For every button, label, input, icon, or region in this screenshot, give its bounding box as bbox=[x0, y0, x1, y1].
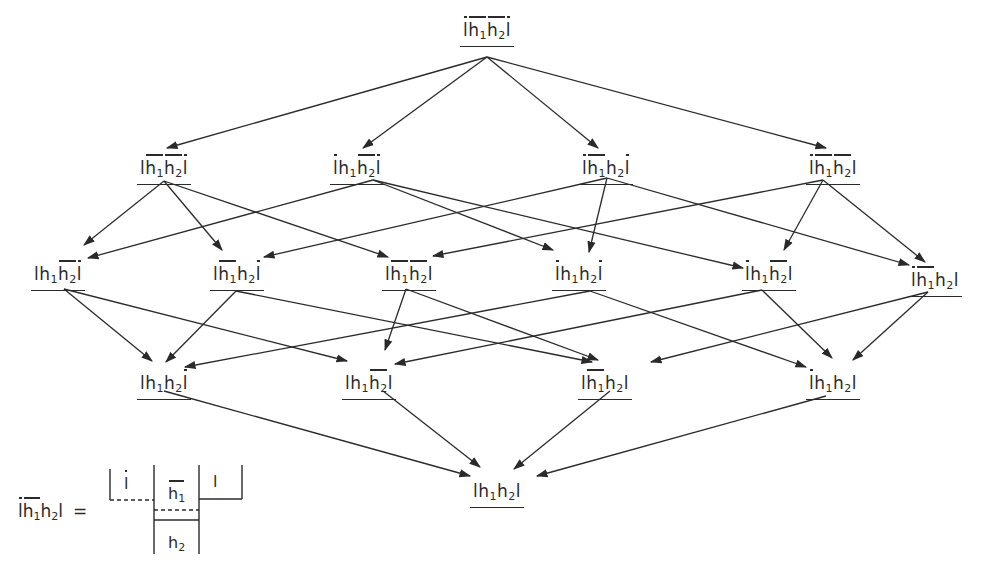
lattice-node-E: lh1h2l bbox=[31, 258, 85, 291]
edge-I-to-N bbox=[762, 290, 832, 358]
node-label: lh1h2l bbox=[31, 258, 85, 291]
lattice-node-A: lh1h2l bbox=[137, 152, 191, 185]
node-label: lh1h2l bbox=[330, 152, 384, 185]
legend-cell-l: l bbox=[213, 466, 217, 491]
symbol-l: l bbox=[388, 367, 393, 393]
lattice-node-M: lh1h2l bbox=[578, 367, 632, 400]
symbol-h1: h1 bbox=[350, 367, 369, 396]
lattice-node-B: lh1h2l bbox=[330, 152, 384, 185]
symbol-h2: h2 bbox=[497, 475, 516, 504]
symbol-l: l bbox=[428, 258, 433, 284]
symbol-h1: h1 bbox=[814, 367, 833, 396]
symbol-l: l bbox=[516, 475, 521, 501]
complemented-symbol-h1: h1 bbox=[814, 152, 833, 181]
edge-A-to-E bbox=[84, 181, 164, 245]
edge-top-to-A bbox=[167, 57, 487, 148]
lattice-node-C: lh1h2l bbox=[579, 152, 633, 185]
complemented-symbol-h1: h1 bbox=[168, 478, 185, 503]
symbol-h2: h2 bbox=[606, 152, 625, 181]
node-label: lh1h2l bbox=[137, 367, 191, 400]
complemented-symbol-h1: h1 bbox=[390, 258, 409, 287]
node-label: lh1h2l bbox=[382, 258, 436, 291]
legend-formula: lh1h2l= bbox=[18, 495, 87, 521]
lattice-node-top: lh1h2l bbox=[460, 14, 514, 47]
node-label: lh1h2l bbox=[137, 152, 191, 185]
complemented-symbol-h2: h2 bbox=[769, 258, 788, 287]
edge-B-to-H bbox=[373, 180, 553, 250]
edge-C-to-J bbox=[607, 178, 909, 265]
node-label: lh1h2l bbox=[210, 258, 264, 291]
edge-G-to-L bbox=[385, 289, 406, 350]
complemented-symbol-h2: h2 bbox=[369, 367, 388, 396]
complemented-symbol-h1: h1 bbox=[218, 258, 237, 287]
complemented-symbol-h1: h1 bbox=[23, 495, 41, 521]
lattice-node-G: lh1h2l bbox=[382, 258, 436, 291]
symbol-h2: h2 bbox=[605, 367, 624, 396]
complemented-symbol-l: l bbox=[124, 468, 128, 493]
edge-M-to-bottom bbox=[514, 391, 610, 469]
symbol-h1: h1 bbox=[39, 258, 58, 287]
edge-top-to-B bbox=[363, 57, 487, 148]
legend-equals-sign: = bbox=[73, 501, 87, 521]
edge-top-to-C bbox=[487, 57, 598, 148]
legend-cell-h1-bar: h1 bbox=[168, 478, 185, 503]
complemented-symbol-l: l bbox=[506, 14, 511, 40]
symbol-h1: h1 bbox=[750, 258, 769, 287]
symbol-h2: h2 bbox=[935, 264, 954, 293]
complemented-symbol-l: l bbox=[625, 152, 630, 178]
edge-B-to-E bbox=[88, 180, 373, 258]
node-label: lh1h2l bbox=[806, 367, 860, 400]
node-label: lh1h2l bbox=[579, 152, 633, 185]
edge-E-to-L bbox=[64, 289, 347, 361]
complemented-symbol-l: l bbox=[183, 367, 188, 393]
node-label: lh1h2l bbox=[342, 367, 396, 400]
symbol-h2: h2 bbox=[579, 258, 598, 287]
complemented-symbol-h2: h2 bbox=[833, 152, 852, 181]
complemented-symbol-h2: h2 bbox=[58, 258, 77, 287]
edge-F-to-K bbox=[166, 291, 236, 362]
complemented-symbol-h1: h1 bbox=[468, 14, 487, 43]
edge-F-to-M bbox=[236, 291, 592, 362]
node-label: lh1h2l bbox=[742, 258, 796, 291]
symbol-h2: h2 bbox=[168, 527, 185, 552]
complemented-symbol-h1: h1 bbox=[145, 152, 164, 181]
edge-D-to-G bbox=[433, 180, 823, 256]
symbol-l: l bbox=[788, 258, 793, 284]
complemented-symbol-l: l bbox=[183, 152, 188, 178]
symbol-h1: h1 bbox=[145, 367, 164, 396]
node-label: lh1h2l bbox=[552, 258, 606, 291]
lattice-node-H: lh1h2l bbox=[552, 258, 606, 291]
edge-G-to-M bbox=[406, 289, 598, 360]
symbol-h2: h2 bbox=[41, 495, 59, 521]
symbol-l: l bbox=[954, 264, 959, 290]
edge-C-to-H bbox=[589, 178, 607, 252]
edge-A-to-G bbox=[164, 181, 388, 257]
symbol-h1: h1 bbox=[338, 152, 357, 181]
complemented-symbol-l: l bbox=[256, 258, 261, 284]
symbol-h1: h1 bbox=[478, 475, 497, 504]
complemented-symbol-l: l bbox=[376, 152, 381, 178]
node-label: lh1h2l bbox=[460, 14, 514, 47]
lattice-node-bottom: lh1h2l bbox=[470, 475, 524, 508]
node-label: lh1h2l bbox=[908, 264, 962, 297]
symbol-h1: h1 bbox=[560, 258, 579, 287]
symbol-l: l bbox=[624, 367, 629, 393]
lattice-node-J: lh1h2l bbox=[908, 264, 962, 297]
node-label: lh1h2l bbox=[806, 152, 860, 185]
symbol-h2: h2 bbox=[833, 367, 852, 396]
legend-formula-lhs: lh1h2l bbox=[18, 495, 63, 521]
node-label: lh1h2l bbox=[578, 367, 632, 400]
lattice-node-I: lh1h2l bbox=[742, 258, 796, 291]
edge-D-to-J bbox=[823, 180, 925, 262]
symbol-l: l bbox=[852, 152, 857, 178]
edge-N-to-bottom bbox=[537, 396, 826, 476]
edge-top-to-D bbox=[487, 57, 826, 148]
complemented-symbol-h2: h2 bbox=[164, 152, 183, 181]
edge-K-to-bottom bbox=[164, 391, 470, 476]
symbol-l: l bbox=[58, 495, 63, 521]
legend-cell-l-bar: l bbox=[124, 468, 128, 493]
node-label: lh1h2l bbox=[470, 475, 524, 508]
symbol-h2: h2 bbox=[164, 367, 183, 396]
complemented-symbol-l: l bbox=[77, 258, 82, 284]
edge-J-to-N bbox=[853, 292, 928, 360]
